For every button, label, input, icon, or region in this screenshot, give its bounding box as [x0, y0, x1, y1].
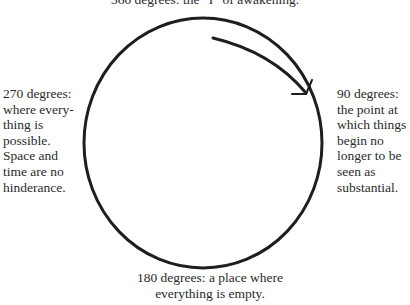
label-180-degrees: 180 degrees: a place where everything is…: [110, 270, 310, 301]
label-270-degrees: 270 degrees: where every-thing is possib…: [3, 86, 85, 195]
label-90-degrees: 90 degrees: the point at which things be…: [337, 86, 410, 195]
clockwise-arrow-arc: [213, 38, 306, 93]
cycle-circle: [84, 18, 322, 268]
label-360-degrees: 360 degrees: the “I” of awakening.: [0, 0, 410, 8]
